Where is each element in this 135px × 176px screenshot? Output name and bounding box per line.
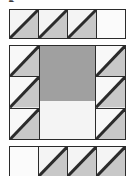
right-triangle-column: [96, 46, 125, 139]
hst-unit: [10, 77, 39, 108]
half-square-triangle-icon: [10, 10, 38, 38]
quilt-block-diagram: g: [0, 0, 135, 176]
half-square-triangle-icon: [96, 109, 125, 139]
hst-unit: [39, 10, 68, 38]
half-square-triangle-icon: [39, 147, 67, 176]
hst-unit: [96, 109, 125, 139]
half-square-triangle-icon: [10, 109, 39, 139]
half-square-triangle-icon: [39, 10, 67, 38]
half-square-triangle-icon: [96, 77, 125, 107]
center-square-fill: [40, 46, 95, 101]
hst-unit: [39, 147, 68, 176]
half-square-triangle-icon: [68, 10, 96, 38]
top-flying-geese-strip: [9, 9, 126, 39]
plain-square-icon: [10, 147, 38, 176]
hst-unit: [97, 147, 125, 176]
hst-unit: [68, 147, 97, 176]
hst-unit: [10, 46, 39, 77]
hst-unit: [10, 10, 39, 38]
plain-square-icon: [97, 10, 125, 38]
hst-unit: [96, 46, 125, 77]
left-triangle-column: [10, 46, 39, 139]
bottom-flying-geese-strip: [9, 146, 126, 176]
half-square-triangle-icon: [10, 46, 39, 76]
partial-text-label: g: [8, 0, 15, 2]
half-square-triangle-icon: [96, 46, 125, 76]
center-square: [39, 46, 96, 139]
hst-unit: [10, 109, 39, 139]
plain-square-unit: [97, 10, 125, 38]
hst-unit: [68, 10, 97, 38]
hst-unit: [96, 77, 125, 108]
half-square-triangle-icon: [68, 147, 96, 176]
center-block: [9, 45, 126, 140]
half-square-triangle-icon: [97, 147, 125, 176]
half-square-triangle-icon: [10, 77, 39, 107]
plain-square-unit: [10, 147, 39, 176]
